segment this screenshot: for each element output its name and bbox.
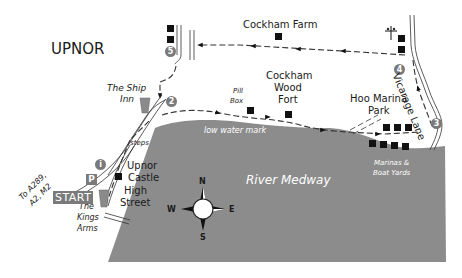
info-icon: i [95,159,106,170]
steps-label: steps [130,140,149,147]
pill-box-label-2: Box [230,98,243,105]
compass-west: W [167,206,176,214]
upnor-castle-label-2: Castle [128,173,159,184]
ship-inn-label-2: Inn [120,95,134,104]
waypoint-5: 5 [165,46,176,57]
cockham-wood-fort-label-2: Wood [274,83,302,94]
building-square-icon [398,46,405,53]
waypoint-3: 3 [431,118,442,129]
pint-glass-icon [140,98,150,113]
upnor-castle-label-1: Upnor [127,161,157,172]
high-street-label-2: Street [120,198,150,209]
town-label-upnor: UPNOR [51,42,104,58]
waypoint-2: 2 [166,96,177,107]
building-square-icon [167,36,174,43]
compass-north: N [199,178,206,186]
upnor-road [175,25,194,64]
low-water-mark-label: low water mark [204,127,266,135]
pill-box-label-1: Pill [233,88,243,95]
building-square-icon [380,141,387,148]
cockham-wood-fort-label-1: Cockham [266,71,313,82]
ship-inn-label-1: The Ship [107,84,146,93]
building-square-icon [394,124,401,131]
river-medway-label: River Medway [246,174,331,187]
cockham-wood-fort-label-3: Fort [278,95,298,106]
building-square-icon [275,33,282,40]
compass-south: S [200,234,206,242]
marina-slipway [350,115,381,134]
building-square-icon [247,107,254,114]
church-cross-icon [385,26,397,40]
kings-arms-label-2: Kings [77,214,99,222]
building-square-icon [369,140,376,147]
compass-east: E [229,206,234,214]
hoo-marina-label-2: Park [368,106,390,117]
building-square-icon [115,173,122,180]
building-square-icon [391,142,398,149]
cockham-farm-label: Cockham Farm [243,20,317,31]
kings-arms-label-3: Arms [77,225,98,233]
parking-icon: P [86,174,97,185]
marinas-label-2: Boat Yards [373,170,410,177]
building-square-icon [383,124,390,131]
pint-glass-icon [99,190,109,207]
building-square-icon [398,35,405,42]
start-marker: START [53,191,93,204]
building-square-icon [402,143,409,150]
high-street-label-1: High [124,186,147,197]
marinas-label-1: Marinas & [374,160,409,167]
building-square-icon [285,111,292,118]
kings-arms-label-1: The [79,203,94,211]
building-square-icon [167,25,174,32]
